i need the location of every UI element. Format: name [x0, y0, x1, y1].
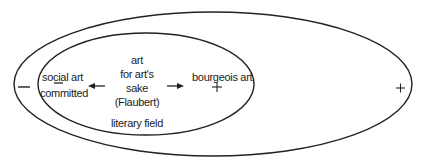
label-bourgeois-art: bourgeois art [192, 70, 252, 84]
label-committed: committed [40, 86, 88, 100]
center-line-4: (Flaubert) [108, 95, 166, 109]
center-line-3: sake [108, 81, 166, 95]
label-art-for-arts-sake: art for art's sake (Flaubert) [108, 53, 166, 109]
center-line-1: art [108, 53, 166, 67]
label-literary-field: literary field [104, 116, 170, 130]
center-line-2: for art's [108, 67, 166, 81]
plus-icon-outer [396, 84, 405, 93]
label-social-art: social art [42, 70, 83, 84]
arrow-right-icon [167, 83, 184, 89]
arrow-left-icon [88, 83, 105, 89]
outer-ellipse [14, 12, 412, 156]
